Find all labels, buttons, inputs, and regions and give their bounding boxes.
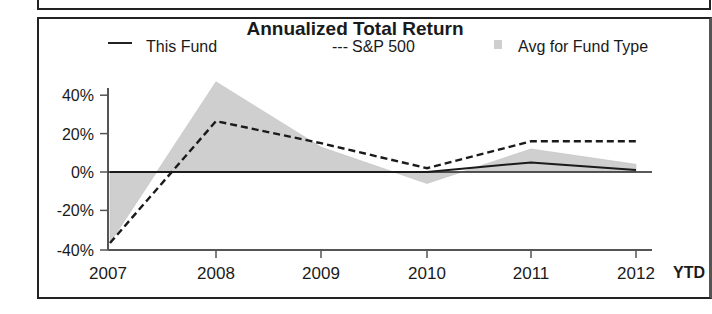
y-tick-label: 0% bbox=[71, 164, 94, 181]
y-tick-label: -20% bbox=[57, 202, 94, 219]
ytd-label: YTD bbox=[673, 264, 705, 281]
x-tick-label: 2009 bbox=[302, 264, 340, 283]
y-tick-label: 20% bbox=[62, 126, 94, 143]
avg-fund-type-area bbox=[110, 82, 636, 243]
y-tick-label: -40% bbox=[57, 242, 94, 259]
x-tick-label: 2011 bbox=[513, 264, 550, 283]
x-tick-label: 2008 bbox=[197, 264, 235, 283]
x-tick-label: 2010 bbox=[408, 264, 446, 283]
x-tick-label: 2007 bbox=[89, 264, 127, 283]
y-tick-label: 40% bbox=[62, 87, 94, 104]
x-tick-label: 2012 bbox=[617, 264, 655, 283]
